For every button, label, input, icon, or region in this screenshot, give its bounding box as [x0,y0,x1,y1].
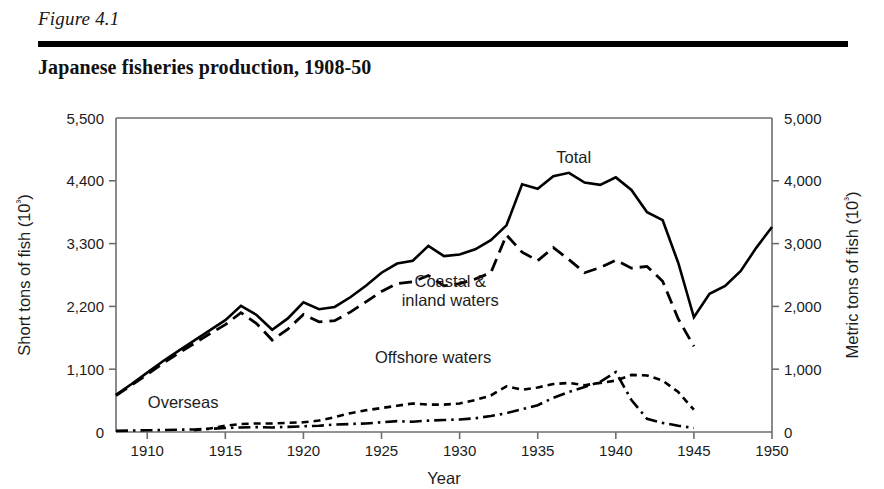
axis-title-text: ) [843,192,861,198]
y-axis-left-tick-label: 4,400 [66,172,104,189]
x-axis-title: Year [427,469,461,487]
y-axis-right-tick-label: 2,000 [784,298,822,315]
x-axis-tick-label: 1930 [443,442,476,459]
fisheries-line-chart: 01,1002,2003,3004,4005,500 01,0002,0003,… [0,92,884,489]
x-axis-tick-label: 1945 [677,442,710,459]
chart-plot-area: 01,1002,2003,3004,4005,500 01,0002,0003,… [0,92,884,489]
series-label-coastal-inland-waters: Coastal &inland waters [402,272,499,309]
y-axis-left-tick-label: 5,500 [66,110,104,127]
series-label-coastal-inland-waters-line: inland waters [402,291,499,309]
y-axis-left-tick-label: 2,200 [66,298,104,315]
y-axis-right-title: Metric tons of fish (10³) [842,192,861,359]
figure-container: Figure 4.1 Japanese fisheries production… [0,0,884,489]
figure-divider-rule [38,41,848,47]
axis-title-text: ) [15,194,33,200]
x-axis-tick-label: 1925 [365,442,398,459]
series-annotation-labels: TotalCoastal &inland watersOffshore wate… [148,148,591,411]
x-axis-tick-label: 1935 [521,442,554,459]
y-axis-right-tick-label: 0 [784,424,792,441]
axis-title-text: Short tons of fish (10 [15,203,33,355]
series-label-total-line: Total [556,148,591,166]
x-axis-tick-label: 1940 [599,442,632,459]
x-axis-ticks: 191019151920192519301935194019451950 [131,432,789,459]
y-axis-right-tick-label: 1,000 [784,361,822,378]
series-label-total: Total [556,148,591,166]
figure-title: Japanese fisheries production, 1908-50 [38,56,371,79]
axis-title-text: Metric tons of fish (10 [843,201,861,359]
series-label-offshore-waters: Offshore waters [375,348,491,366]
figure-number: Figure 4.1 [38,8,120,30]
series-line-coastal-inland-waters [116,235,694,395]
y-axis-left-title: Short tons of fish (10³) [14,194,33,355]
series-label-overseas-line: Overseas [148,393,219,411]
x-axis-tick-label: 1920 [287,442,320,459]
x-axis-tick-label: 1910 [131,442,164,459]
y-axis-left-tick-label: 0 [96,424,104,441]
y-axis-right-tick-label: 4,000 [784,172,822,189]
series-label-offshore-waters-line: Offshore waters [375,348,491,366]
y-axis-left-tick-label: 1,100 [66,361,104,378]
series-line-offshore-waters [194,375,694,430]
y-axis-right-tick-label: 3,000 [784,235,822,252]
x-axis-tick-label: 1950 [755,442,788,459]
series-label-coastal-inland-waters-line: Coastal & [414,272,486,290]
series-label-overseas: Overseas [148,393,219,411]
y-axis-right-tick-label: 5,000 [784,110,822,127]
x-axis-tick-label: 1915 [209,442,242,459]
y-axis-left-ticks: 01,1002,2003,3004,4005,500 [66,110,116,441]
y-axis-right-ticks: 01,0002,0003,0004,0005,000 [772,110,822,441]
y-axis-left-tick-label: 3,300 [66,235,104,252]
